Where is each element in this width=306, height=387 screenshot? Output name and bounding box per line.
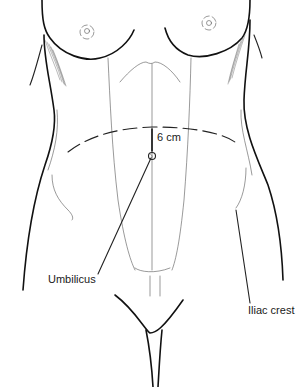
right-iliac-region [236, 168, 246, 208]
measurement-arrow [148, 128, 156, 152]
right-arm-outline [254, 35, 262, 58]
pubic-region [115, 268, 183, 387]
linea-semilunaris-left [108, 58, 135, 270]
linea-semilunaris-right [172, 58, 191, 270]
distance-label: 6 cm [157, 132, 181, 143]
left-rib-hatching [45, 40, 66, 86]
left-breast [42, 0, 134, 59]
right-torso-inner [241, 110, 252, 175]
right-torso-outline [244, 20, 283, 280]
costal-margin [120, 62, 180, 82]
left-arm-outline [30, 45, 42, 85]
left-torso-outline [23, 35, 55, 290]
torso-diagram: 6 cm Umbilicus Iliac crest [0, 0, 306, 387]
iliac-crest-leader-line [236, 210, 250, 303]
umbilicus-label: Umbilicus [48, 274, 96, 285]
right-breast [165, 0, 250, 56]
iliac-crest-label: Iliac crest [248, 305, 294, 316]
umbilicus-leader-line [98, 158, 151, 274]
left-iliac-region [52, 175, 73, 220]
